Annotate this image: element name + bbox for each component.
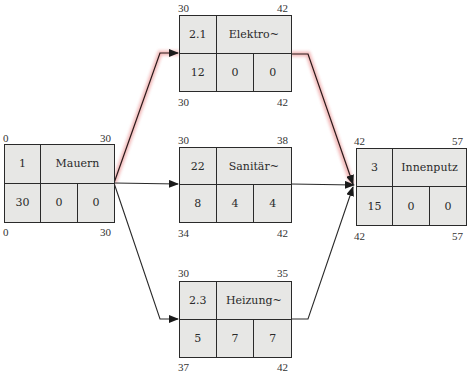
activity-id: 2.1 [180, 16, 217, 53]
es-elektro: 30 [178, 3, 189, 14]
activity-id: 2.3 [180, 282, 217, 319]
node-heizung[interactable]: 2.3 Heizung~ 5 7 7 [179, 281, 292, 358]
activity-name: Innenputz [393, 149, 466, 186]
duration: 30 [5, 184, 41, 223]
es-innenputz: 42 [354, 136, 365, 147]
ls-mauern: 0 [3, 227, 9, 238]
total-float: 7 [217, 320, 255, 358]
node-values: 30 0 0 [5, 184, 114, 223]
node-header: 3 Innenputz [357, 149, 466, 187]
activity-name: Heizung~ [217, 282, 291, 319]
node-header: 2.1 Elektro~ [180, 16, 291, 54]
node-values: 15 0 0 [357, 187, 466, 225]
lf-innenputz: 57 [452, 231, 463, 242]
node-values: 8 4 4 [180, 185, 291, 222]
ls-elektro: 30 [178, 97, 189, 108]
network-diagram: 0 30 1 Mauern 30 0 0 0 30 30 42 2.1 Elek… [0, 0, 468, 375]
activity-name: Mauern [41, 145, 114, 183]
edge-sanitaer-innenputz [291, 184, 354, 185]
es-mauern: 0 [3, 133, 9, 144]
activity-name: Sanitär~ [217, 148, 291, 184]
ls-sanitaer: 34 [178, 228, 189, 239]
es-heizung: 30 [178, 268, 189, 279]
free-float: 0 [430, 187, 466, 225]
lf-elektro: 42 [277, 97, 288, 108]
ls-innenputz: 42 [354, 231, 365, 242]
duration: 12 [180, 54, 217, 92]
lf-mauern: 30 [100, 227, 111, 238]
activity-name: Elektro~ [217, 16, 291, 53]
node-elektro[interactable]: 2.1 Elektro~ 12 0 0 [179, 15, 292, 92]
free-float: 4 [254, 185, 291, 222]
node-values: 12 0 0 [180, 54, 291, 92]
node-mauern[interactable]: 1 Mauern 30 0 0 [4, 144, 115, 223]
total-float: 0 [217, 54, 255, 92]
node-sanitaer[interactable]: 22 Sanitär~ 8 4 4 [179, 147, 292, 223]
duration: 8 [180, 185, 217, 222]
free-float: 7 [254, 320, 291, 358]
node-innenputz[interactable]: 3 Innenputz 15 0 0 [356, 148, 467, 226]
ef-innenputz: 57 [452, 136, 463, 147]
lf-sanitaer: 42 [277, 228, 288, 239]
total-float: 0 [393, 187, 430, 225]
activity-id: 22 [180, 148, 217, 184]
ef-elektro: 42 [277, 3, 288, 14]
duration: 5 [180, 320, 217, 358]
edge-mauern-elektro [114, 53, 178, 183]
total-float: 0 [41, 184, 78, 223]
ls-heizung: 37 [178, 362, 189, 373]
node-header: 22 Sanitär~ [180, 148, 291, 185]
node-values: 5 7 7 [180, 320, 291, 358]
activity-id: 1 [5, 145, 41, 183]
ef-sanitaer: 38 [277, 135, 288, 146]
ef-heizung: 35 [277, 268, 288, 279]
duration: 15 [357, 187, 393, 225]
free-float: 0 [254, 54, 291, 92]
lf-heizung: 42 [277, 362, 288, 373]
total-float: 4 [217, 185, 255, 222]
activity-id: 3 [357, 149, 393, 186]
edge-heizung-innenputz [291, 187, 353, 319]
node-header: 1 Mauern [5, 145, 114, 184]
edge-mauern-heizung [114, 183, 178, 319]
es-sanitaer: 30 [178, 135, 189, 146]
node-header: 2.3 Heizung~ [180, 282, 291, 320]
ef-mauern: 30 [100, 133, 111, 144]
edge-mauern-sanitaer [114, 183, 178, 184]
free-float: 0 [78, 184, 114, 223]
